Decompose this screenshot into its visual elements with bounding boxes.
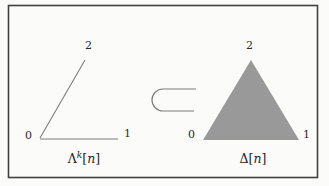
simplex-vertex-label-0: 0	[188, 129, 195, 140]
frame-border	[9, 6, 318, 178]
simplex-caption: Δ[n]	[229, 153, 277, 166]
horn-caption-close: ]	[95, 151, 100, 166]
simplex-shape	[203, 60, 299, 140]
subset-icon	[152, 89, 196, 111]
horn-caption: Λk[n]	[56, 153, 112, 166]
horn-shape	[40, 60, 118, 139]
figure-canvas: 2 0 1 2 0 1 Λk[n] Δ[n]	[0, 0, 329, 186]
simplex-caption-close: ]	[262, 151, 267, 166]
horn-edge-0-2	[40, 60, 85, 138]
horn-vertex-label-0: 0	[25, 130, 32, 141]
simplex-vertex-label-2: 2	[246, 40, 253, 51]
simplex-caption-base: Δ	[240, 151, 249, 166]
diagram-svg	[0, 0, 329, 186]
simplex-caption-var: n	[253, 151, 261, 166]
horn-vertex-label-2: 2	[85, 40, 92, 51]
horn-caption-base: Λ	[68, 151, 77, 166]
simplex-vertex-label-1: 1	[303, 129, 310, 140]
horn-vertex-label-1: 1	[124, 128, 131, 139]
